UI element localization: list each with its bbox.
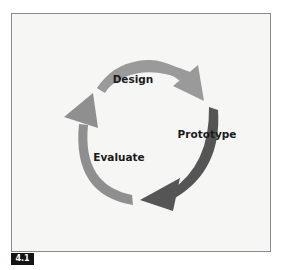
- figure-number-label: 4.1: [11, 253, 34, 265]
- stage-label-prototype: Prototype: [178, 128, 237, 140]
- prototype-arrow: [140, 107, 218, 211]
- stage-label-design: Design: [113, 73, 154, 85]
- evaluate-arrow: [64, 93, 133, 205]
- stage-label-evaluate: Evaluate: [93, 151, 144, 163]
- cycle-diagram: Design Prototype Evaluate: [0, 0, 288, 270]
